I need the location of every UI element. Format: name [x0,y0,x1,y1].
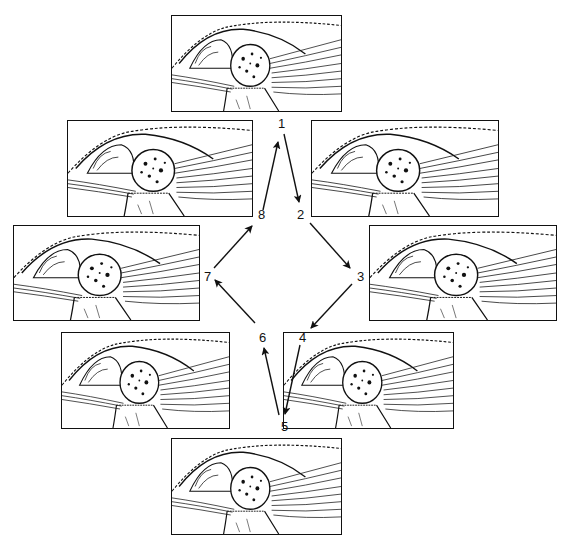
panel-stage-1 [171,15,342,112]
panel-stage-8 [67,120,253,217]
joint-illustration [62,333,229,428]
arrow-7-to-8 [214,226,252,268]
stage-label-7: 7 [204,270,211,283]
joint-illustration [312,121,498,216]
panel-stage-4 [283,332,454,429]
stage-label-4: 4 [299,331,306,344]
arrow-1-to-2 [284,134,299,202]
arrow-3-to-4 [311,284,352,328]
arrow-8-to-1 [263,142,278,210]
arrow-6-to-7 [215,280,255,323]
joint-illustration [14,226,199,320]
stage-label-2: 2 [297,208,304,221]
stage-label-8: 8 [258,208,265,221]
joint-illustration [370,226,556,320]
arrow-5-to-6 [264,348,279,415]
joint-illustration [172,16,341,111]
stage-label-6: 6 [259,331,266,344]
panel-stage-7 [13,225,200,321]
stage-label-5: 5 [281,420,288,433]
joint-illustration [172,439,341,534]
stage-label-1: 1 [278,117,285,130]
panel-stage-5 [171,438,342,535]
arrow-2-to-3 [310,223,350,268]
joint-illustration [68,121,252,216]
panel-stage-6 [61,332,230,429]
joint-illustration [284,333,453,428]
stage-label-3: 3 [357,270,364,283]
panel-stage-2 [311,120,499,217]
panel-stage-3 [369,225,557,321]
